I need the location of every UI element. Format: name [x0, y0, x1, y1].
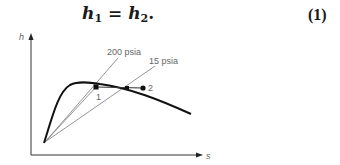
isobar-low-label: 15 psia	[149, 56, 178, 66]
state-1-label: 1	[96, 92, 101, 102]
isobar-200-psia	[45, 58, 118, 142]
h-s-diagram: h s 1 2 200 psia 15 psia	[0, 0, 340, 165]
x-axis-label: s	[206, 151, 211, 161]
saturation-curve	[44, 82, 191, 143]
x-axis-arrow-icon	[196, 153, 203, 158]
mid-point	[125, 86, 129, 90]
isobar-15-psia	[45, 66, 155, 142]
state-2-point	[140, 85, 145, 90]
y-axis-arrow-icon	[29, 33, 34, 40]
state-1-point	[94, 85, 99, 90]
throttling-line	[96, 87, 143, 88]
isobar-high-label: 200 psia	[107, 47, 141, 57]
y-axis-label: h	[19, 32, 24, 42]
state-2-label: 2	[148, 83, 153, 93]
